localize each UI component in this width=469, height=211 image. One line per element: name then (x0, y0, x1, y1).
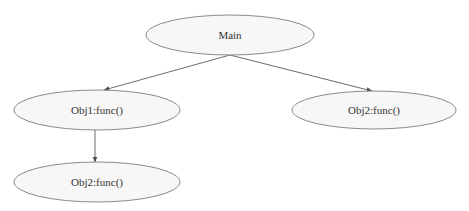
node-obj2-func-right[interactable]: Obj2:func() (292, 91, 456, 129)
node-obj2-func-bottom-label: Obj2:func() (71, 176, 123, 189)
node-obj1-func[interactable]: Obj1:func() (14, 90, 180, 130)
node-main-label: Main (218, 29, 242, 41)
node-main[interactable]: Main (146, 15, 314, 55)
node-obj2-func-bottom[interactable]: Obj2:func() (14, 162, 180, 202)
node-obj1-func-label: Obj1:func() (71, 104, 123, 117)
node-obj2-func-right-label: Obj2:func() (348, 104, 400, 117)
call-tree-diagram: Main Obj1:func() Obj2:func() Obj2:func() (0, 0, 469, 211)
edge-main-to-obj2-func (230, 55, 372, 91)
edge-main-to-obj1-func (104, 55, 230, 90)
